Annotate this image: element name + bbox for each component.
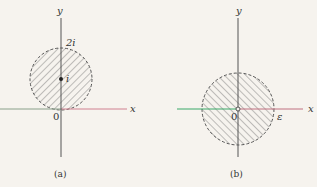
center-label-a: i: [66, 74, 69, 84]
figure-a: [0, 18, 127, 157]
y-axis-label-b: y: [236, 6, 242, 16]
figure-b: [177, 18, 303, 157]
radius-label-b: ε: [277, 112, 282, 122]
x-axis-label-a: x: [130, 104, 136, 114]
caption-b: (b): [230, 170, 243, 179]
center-point-a: [59, 77, 63, 81]
x-axis-label-b: x: [308, 104, 314, 114]
top-point-label-a: 2i: [66, 38, 76, 48]
diagram-canvas: [0, 0, 317, 187]
origin-label-b: 0: [231, 112, 237, 122]
origin-label-a: 0: [53, 112, 59, 122]
caption-a: (a): [54, 170, 66, 179]
y-axis-label-a: y: [57, 6, 63, 16]
